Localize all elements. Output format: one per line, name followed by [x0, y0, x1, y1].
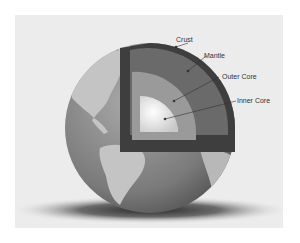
globe: [65, 43, 236, 213]
cutaway: [120, 43, 235, 152]
crust-label: Crust: [176, 36, 193, 43]
earth-diagram: [0, 0, 300, 243]
inner-core-label: Inner Core: [237, 97, 270, 104]
outer-core-label: Outer Core: [222, 73, 257, 80]
mantle-label: Mantle: [204, 52, 225, 59]
